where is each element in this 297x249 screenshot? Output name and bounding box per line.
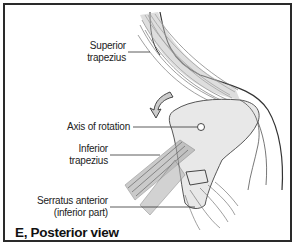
label-inferior-trapezius: Inferior trapezius — [50, 143, 108, 167]
label-axis-of-rotation: Axis of rotation — [40, 121, 130, 133]
label-serratus-anterior: Serratus anterior (inferior part) — [10, 195, 108, 219]
label-line: (inferior part) — [10, 207, 108, 219]
label-line: trapezius — [68, 52, 126, 64]
label-line: trapezius — [50, 155, 108, 167]
rotation-arrow-icon — [150, 92, 173, 118]
axis-of-rotation-marker — [198, 124, 205, 131]
label-line: Serratus anterior — [10, 195, 108, 207]
label-line: Superior — [68, 40, 126, 52]
label-superior-trapezius: Superior trapezius — [68, 40, 126, 64]
label-line: Inferior — [50, 143, 108, 155]
figure-caption: E, Posterior view — [15, 225, 119, 240]
superior-trapezius-fill — [140, 12, 240, 100]
